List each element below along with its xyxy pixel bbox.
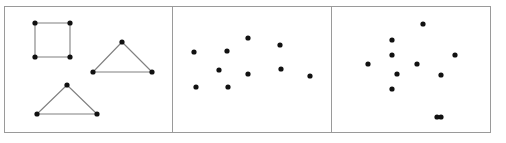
vertex-point <box>119 39 124 44</box>
scatter-point <box>216 67 221 72</box>
scatter-point <box>420 21 425 26</box>
scatter-point <box>245 35 250 40</box>
panel-shapes <box>5 7 173 133</box>
vertex-point <box>94 111 99 116</box>
scatter-point <box>394 71 399 76</box>
scatter-point <box>225 84 230 89</box>
scatter-point <box>434 114 439 119</box>
scatter-point <box>389 52 394 57</box>
vertex-point <box>149 69 154 74</box>
panel-scatter-right <box>332 7 491 133</box>
vertex-point <box>90 69 95 74</box>
scatter-point <box>193 84 198 89</box>
scatter-point <box>245 71 250 76</box>
scatter-point <box>438 72 443 77</box>
vertex-point <box>34 111 39 116</box>
scatter-point <box>191 49 196 54</box>
scatter-point <box>389 37 394 42</box>
panel-scatter-right-frame <box>332 7 491 133</box>
vertex-point <box>32 54 37 59</box>
vertex-point <box>67 20 72 25</box>
figure-canvas <box>0 0 506 143</box>
scatter-point <box>452 52 457 57</box>
panel-scatter-middle-frame <box>173 7 332 133</box>
panel-scatter-middle <box>173 7 332 133</box>
scatter-point <box>277 42 282 47</box>
scatter-point <box>389 86 394 91</box>
vertex-point <box>32 20 37 25</box>
vertex-point <box>67 54 72 59</box>
scatter-point <box>278 66 283 71</box>
scatter-point <box>414 61 419 66</box>
vertex-point <box>64 82 69 87</box>
scatter-point <box>307 73 312 78</box>
three-panel-point-figure <box>0 0 506 143</box>
scatter-point <box>365 61 370 66</box>
scatter-point <box>224 48 229 53</box>
